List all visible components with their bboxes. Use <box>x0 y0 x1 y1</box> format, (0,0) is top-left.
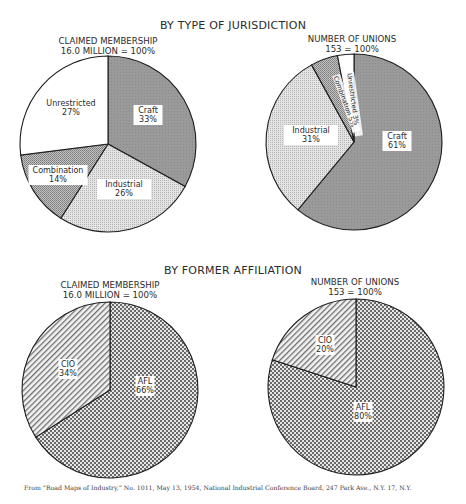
svg-text:CIO: CIO <box>61 360 75 369</box>
pie-charts: Craft33%Industrial26%Combination14%Unres… <box>0 0 466 504</box>
svg-text:Industrial: Industrial <box>292 126 330 135</box>
svg-text:66%: 66% <box>136 386 154 395</box>
svg-text:Unrestricted: Unrestricted <box>46 99 95 108</box>
slice-label-craft: Craft33% <box>134 105 163 125</box>
svg-text:CIO: CIO <box>318 336 332 345</box>
svg-text:14%: 14% <box>49 175 67 184</box>
slice-label-cio: CIO34% <box>59 359 78 379</box>
slice-label-combination: Combination14% <box>29 165 88 185</box>
svg-text:AFL: AFL <box>138 377 153 386</box>
svg-text:31%: 31% <box>302 135 320 144</box>
pies-root: Craft33%Industrial26%Combination14%Unres… <box>20 54 444 478</box>
slice-label-industrial: Industrial26% <box>97 179 151 199</box>
slice-label-afl: AFL80% <box>354 402 373 422</box>
svg-text:80%: 80% <box>354 412 372 421</box>
slice-label-craft: Craft61% <box>383 131 412 151</box>
svg-text:33%: 33% <box>139 115 157 124</box>
svg-text:27%: 27% <box>62 108 80 117</box>
pie-chart-3: AFL80%CIO20% <box>268 299 444 475</box>
source-note: From “Road Maps of Industry,” No. 1011, … <box>24 484 454 492</box>
pie-chart-1: Craft61%Industrial31%Combination 5%Unres… <box>266 54 442 230</box>
svg-text:Craft: Craft <box>387 132 407 141</box>
pie-chart-2: AFL66%CIO34% <box>22 302 198 478</box>
svg-text:26%: 26% <box>115 189 133 198</box>
svg-text:Craft: Craft <box>138 106 158 115</box>
svg-text:Combination: Combination <box>33 166 84 175</box>
pie-chart-0: Craft33%Industrial26%Combination14%Unres… <box>20 56 196 232</box>
svg-text:Industrial: Industrial <box>105 180 143 189</box>
svg-text:AFL: AFL <box>356 403 371 412</box>
svg-text:20%: 20% <box>316 345 334 354</box>
slice-label-cio: CIO20% <box>316 335 335 355</box>
slice-label-industrial: Industrial31% <box>284 125 338 145</box>
slice-label-unrestricted: Unrestricted27% <box>39 98 103 118</box>
svg-text:61%: 61% <box>388 141 406 150</box>
svg-text:34%: 34% <box>59 369 77 378</box>
slice-label-afl: AFL66% <box>136 376 155 396</box>
